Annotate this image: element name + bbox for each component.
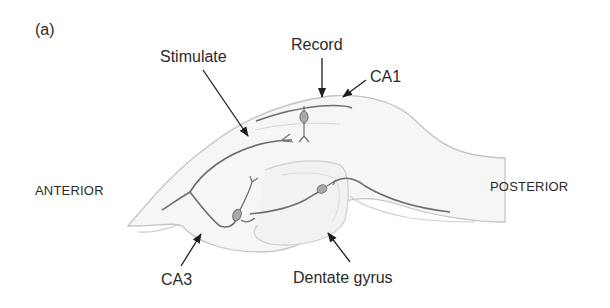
ca3-label: CA3: [161, 272, 192, 288]
hippocampus-diagram: (a) Stimulate Record CA1 ANTERIOR POSTER…: [0, 0, 610, 308]
ca1-label: CA1: [370, 69, 401, 85]
ca3-arrow: [181, 234, 201, 266]
panel-label: (a): [35, 22, 55, 38]
ca1-arrow: [343, 80, 366, 97]
dentate-gyrus-arrow: [328, 233, 350, 262]
posterior-label: POSTERIOR: [490, 180, 568, 193]
stimulate-arrow: [203, 70, 248, 136]
stimulate-label: Stimulate: [160, 49, 227, 65]
record-label: Record: [291, 37, 343, 53]
ca1-neuron-soma: [300, 111, 308, 123]
anterior-label: ANTERIOR: [35, 184, 104, 197]
dentate-gyrus-label: Dentate gyrus: [293, 270, 393, 286]
